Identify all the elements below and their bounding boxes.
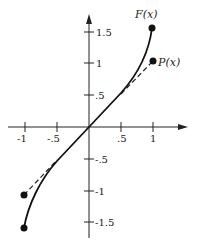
x-axis-arrow-icon <box>178 124 188 130</box>
series-f-endpoint <box>21 225 28 232</box>
y-tick-label: -.5 <box>95 154 108 165</box>
series-f-line <box>24 28 152 228</box>
x-tick-label: -1 <box>17 133 27 144</box>
x-tick-label: -.5 <box>47 133 60 144</box>
series-f-endpoint <box>149 25 156 32</box>
x-tick-label: .5 <box>117 133 127 144</box>
series-p-label: P(x) <box>157 56 180 69</box>
y-tick-label: -1 <box>95 186 105 197</box>
x-tick-label: 1 <box>150 133 156 144</box>
plot-area: -1 -.5 .5 1 1.5 1 .5 -.5 -1 -1.5 F(x) P(… <box>0 0 200 240</box>
chart: -1 -.5 .5 1 1.5 1 .5 -.5 -1 -1.5 F(x) P(… <box>0 0 200 240</box>
series-p-endpoint <box>21 192 28 199</box>
y-tick-label: 1 <box>96 58 102 69</box>
series-p-endpoint <box>150 58 157 65</box>
series-f-label: F(x) <box>134 8 157 21</box>
y-tick-label: 1.5 <box>96 27 112 38</box>
y-tick-label: -1.5 <box>95 217 114 228</box>
y-axis-arrow-icon <box>86 14 92 24</box>
y-tick-label: .5 <box>95 90 105 101</box>
